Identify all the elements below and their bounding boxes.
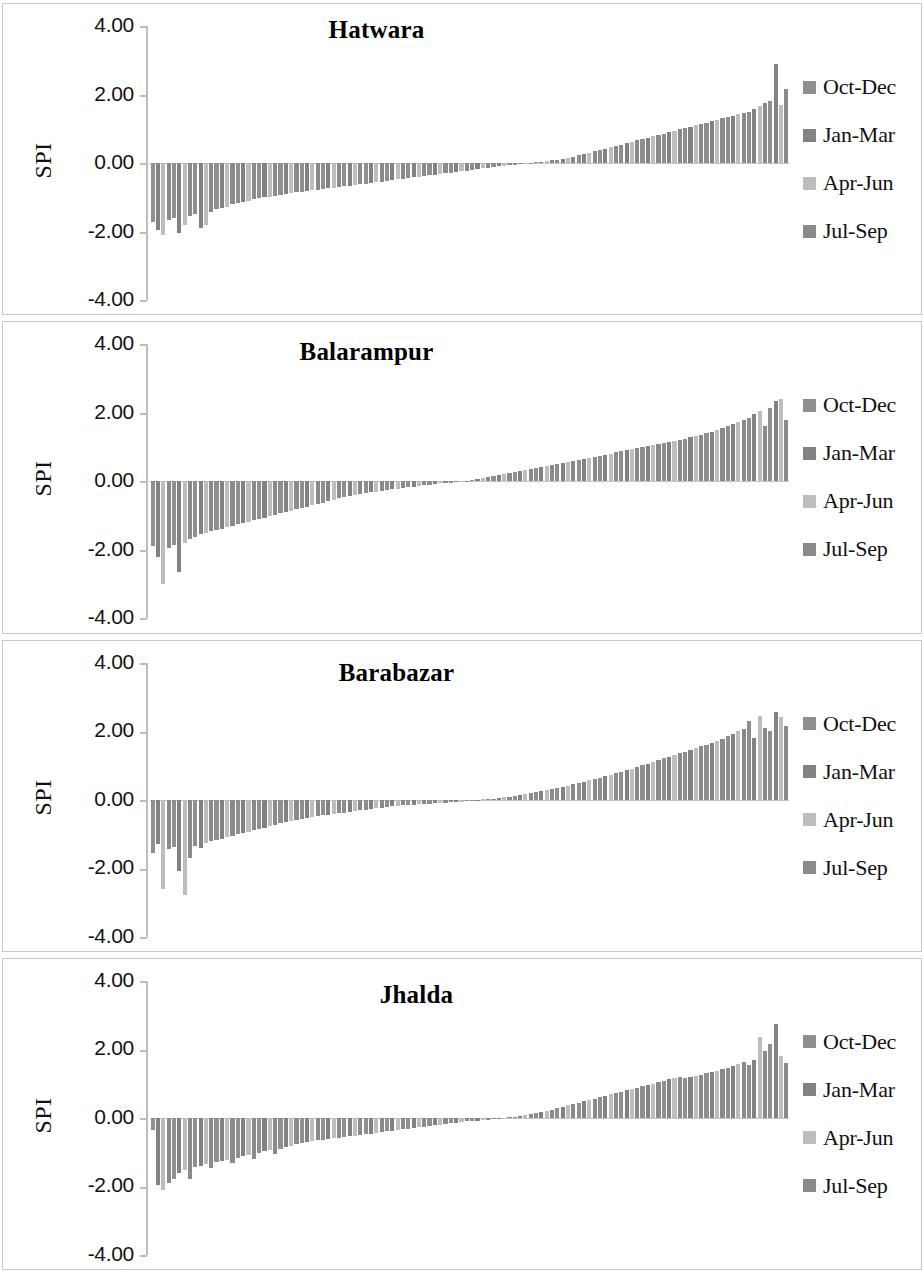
bar <box>225 1118 229 1160</box>
bar <box>449 800 453 803</box>
legend-item-apr-jun[interactable]: Apr-Jun <box>803 489 896 513</box>
legend-item-apr-jun[interactable]: Apr-Jun <box>803 1126 896 1150</box>
bar <box>294 481 298 509</box>
bar <box>385 163 389 181</box>
bar <box>646 446 650 481</box>
bar <box>326 481 330 501</box>
legend-item-jul-sep[interactable]: Jul-Sep <box>803 1174 896 1198</box>
bar <box>742 420 746 481</box>
bar <box>257 163 261 198</box>
bar <box>550 160 554 163</box>
bar <box>529 163 533 164</box>
bar <box>273 163 277 196</box>
bar <box>214 481 218 530</box>
legend-item-jan-mar[interactable]: Jan-Mar <box>803 123 896 147</box>
bar <box>412 1118 416 1128</box>
legend-item-jul-sep[interactable]: Jul-Sep <box>803 856 896 880</box>
bar <box>555 160 559 163</box>
bar <box>747 1065 751 1118</box>
bar <box>262 1118 266 1152</box>
bar <box>672 755 676 800</box>
legend-item-jan-mar[interactable]: Jan-Mar <box>803 1078 896 1102</box>
y-axis-tick <box>140 618 147 620</box>
bar <box>454 1118 458 1123</box>
bar <box>225 481 229 527</box>
legend-item-jan-mar[interactable]: Jan-Mar <box>803 760 896 784</box>
bar <box>763 103 767 163</box>
legend-item-oct-dec[interactable]: Oct-Dec <box>803 75 896 99</box>
legend-item-oct-dec[interactable]: Oct-Dec <box>803 393 896 417</box>
bar <box>710 432 714 482</box>
bar <box>550 465 554 481</box>
bar <box>768 408 772 482</box>
bar <box>752 414 756 481</box>
bar <box>459 481 463 482</box>
bar <box>443 1118 447 1124</box>
bar <box>246 163 250 201</box>
bar <box>491 163 495 167</box>
bar <box>449 163 453 173</box>
y-axis-tick-label: 4.00 <box>18 968 134 992</box>
y-axis-tick <box>140 800 147 802</box>
bar <box>220 163 224 208</box>
y-axis-tick-label: 0.00 <box>18 150 134 174</box>
bar <box>656 1082 660 1118</box>
bar <box>768 731 772 800</box>
bar <box>742 729 746 800</box>
legend-swatch-icon <box>803 399 816 412</box>
figure-sheet: Hatwara SPI 4.002.000.00-2.00-4.00 Oct-D… <box>0 0 924 1272</box>
bar <box>465 800 469 802</box>
bar <box>582 782 586 800</box>
bar <box>161 163 165 235</box>
bar <box>316 1118 320 1141</box>
bar <box>273 1118 277 1154</box>
bar <box>390 481 394 489</box>
legend-item-jan-mar[interactable]: Jan-Mar <box>803 441 896 465</box>
bar <box>204 163 208 225</box>
bar <box>310 1118 314 1141</box>
legend-item-label: Jan-Mar <box>823 759 895 785</box>
legend-item-jul-sep[interactable]: Jul-Sep <box>803 219 896 243</box>
bar <box>305 800 309 819</box>
legend-item-label: Jul-Sep <box>823 536 888 562</box>
legend-item-jul-sep[interactable]: Jul-Sep <box>803 537 896 561</box>
bar <box>726 117 730 163</box>
legend-item-apr-jun[interactable]: Apr-Jun <box>803 171 896 195</box>
bar <box>635 767 639 800</box>
bar <box>470 480 474 481</box>
bar <box>278 800 282 824</box>
legend-item-oct-dec[interactable]: Oct-Dec <box>803 712 896 736</box>
bar <box>651 762 655 800</box>
bar <box>390 163 394 180</box>
bar <box>582 1101 586 1117</box>
bar <box>433 800 437 804</box>
bar <box>758 1037 762 1117</box>
bar <box>358 481 362 494</box>
bar <box>380 163 384 181</box>
bar <box>401 1118 405 1130</box>
bar <box>507 797 511 800</box>
y-axis-tick <box>140 344 147 346</box>
bar <box>747 418 751 481</box>
legend-item-apr-jun[interactable]: Apr-Jun <box>803 808 896 832</box>
bar <box>481 799 485 800</box>
y-axis-tick <box>140 413 147 415</box>
legend-swatch-icon <box>803 447 816 460</box>
chart-panel-hatwara: Hatwara SPI 4.002.000.00-2.00-4.00 Oct-D… <box>2 3 922 315</box>
bar <box>236 481 240 524</box>
bar <box>518 163 522 164</box>
y-axis-tick <box>140 663 147 665</box>
chart-area: Balarampur SPI 4.002.000.00-2.00-4.00 Oc… <box>3 322 921 632</box>
bar <box>593 1099 597 1118</box>
bar <box>177 163 181 233</box>
y-axis-tick <box>140 981 147 983</box>
bar <box>630 142 634 163</box>
bar <box>593 779 597 800</box>
bar <box>348 481 352 496</box>
plot-area-barabazar <box>150 663 789 937</box>
bar <box>220 1118 224 1161</box>
bar <box>262 163 266 197</box>
bar <box>204 481 208 532</box>
bar <box>230 800 234 836</box>
legend-item-oct-dec[interactable]: Oct-Dec <box>803 1030 896 1054</box>
